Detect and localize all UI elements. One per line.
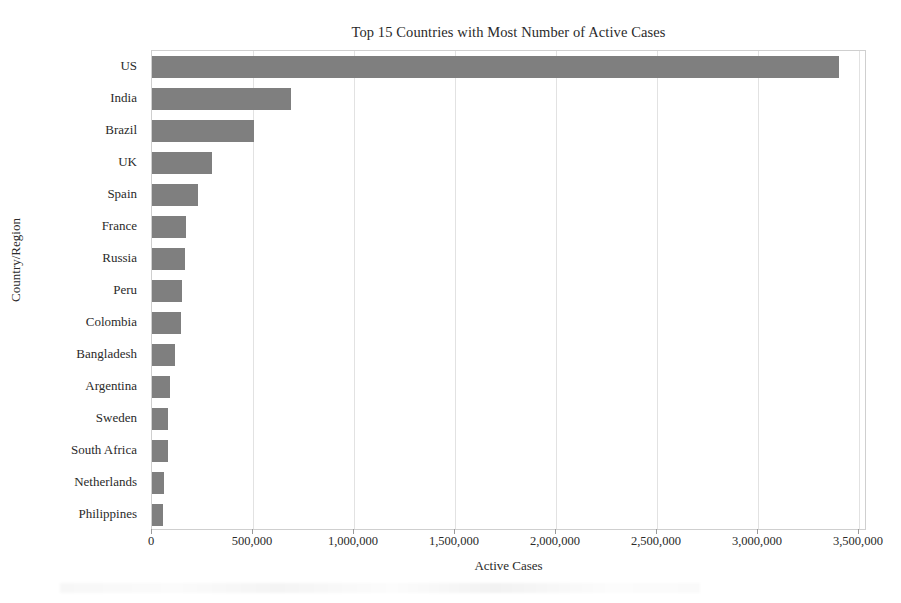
bars-layer <box>152 51 865 529</box>
bar-row <box>152 371 865 403</box>
y-tick-sweden: Sweden <box>96 402 137 434</box>
scan-artifact <box>60 583 700 593</box>
bar-netherlands[interactable] <box>152 472 164 494</box>
bar-south-africa[interactable] <box>152 440 168 462</box>
bar-row <box>152 403 865 435</box>
y-tick-brazil: Brazil <box>105 114 137 146</box>
x-tick-label-7: 3,500,000 <box>778 534 901 549</box>
bar-france[interactable] <box>152 216 186 238</box>
y-tick-netherlands: Netherlands <box>74 466 137 498</box>
bar-sweden[interactable] <box>152 408 168 430</box>
bar-colombia[interactable] <box>152 312 181 334</box>
bar-us[interactable] <box>152 56 839 78</box>
y-tick-france: France <box>102 210 137 242</box>
x-axis-tick-labels: 0500,0001,000,0001,500,0002,000,0002,500… <box>0 534 901 556</box>
bar-row <box>152 147 865 179</box>
bar-india[interactable] <box>152 88 291 110</box>
y-tick-uk: UK <box>118 146 137 178</box>
bar-row <box>152 51 865 83</box>
plot-area <box>151 50 866 530</box>
bar-row <box>152 243 865 275</box>
y-axis-tick-labels: USIndiaBrazilUKSpainFranceRussiaPeruColo… <box>0 50 145 530</box>
bar-row <box>152 179 865 211</box>
bar-peru[interactable] <box>152 280 182 302</box>
bar-row <box>152 467 865 499</box>
bar-row <box>152 339 865 371</box>
bar-row <box>152 115 865 147</box>
bar-row <box>152 211 865 243</box>
y-tick-russia: Russia <box>102 242 137 274</box>
y-tick-spain: Spain <box>107 178 137 210</box>
y-tick-bangladesh: Bangladesh <box>76 338 137 370</box>
y-tick-philippines: Philippines <box>78 498 137 530</box>
bar-bangladesh[interactable] <box>152 344 175 366</box>
y-tick-south-africa: South Africa <box>71 434 137 466</box>
y-tick-peru: Peru <box>113 274 137 306</box>
bar-philippines[interactable] <box>152 504 163 526</box>
y-tick-india: India <box>110 82 137 114</box>
bar-russia[interactable] <box>152 248 185 270</box>
bar-row <box>152 275 865 307</box>
bar-row <box>152 307 865 339</box>
chart-figure: Top 15 Countries with Most Number of Act… <box>0 0 901 603</box>
chart-title: Top 15 Countries with Most Number of Act… <box>151 24 866 41</box>
bar-row <box>152 83 865 115</box>
y-tick-colombia: Colombia <box>86 306 137 338</box>
x-axis-label: Active Cases <box>151 558 866 574</box>
y-tick-argentina: Argentina <box>85 370 137 402</box>
bar-row <box>152 435 865 467</box>
bar-row <box>152 499 865 531</box>
bar-uk[interactable] <box>152 152 212 174</box>
bar-argentina[interactable] <box>152 376 170 398</box>
bar-brazil[interactable] <box>152 120 254 142</box>
y-tick-us: US <box>120 50 137 82</box>
bar-spain[interactable] <box>152 184 198 206</box>
